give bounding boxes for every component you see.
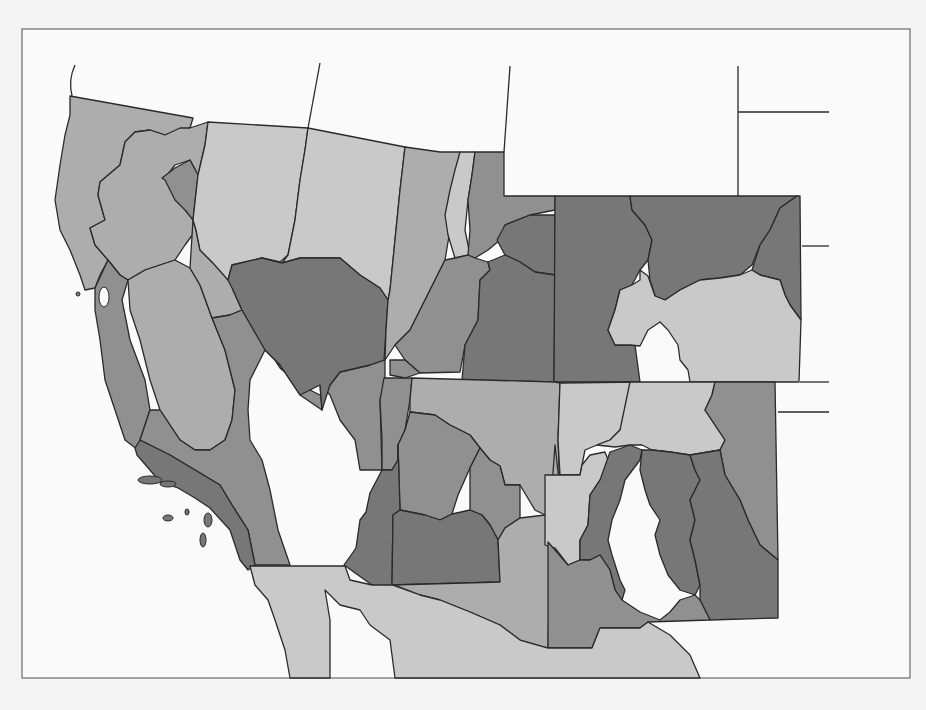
channel-island-1	[138, 476, 162, 484]
farallon-dot	[76, 292, 80, 296]
region-az-maricopa	[392, 510, 500, 585]
southwest-choropleth-map	[0, 0, 926, 710]
channel-island-4	[185, 509, 189, 515]
channel-island-5	[204, 513, 212, 527]
san-francisco-bay-water	[99, 287, 109, 307]
channel-island-6	[200, 533, 206, 547]
channel-island-3	[163, 515, 173, 521]
map-stage	[0, 0, 926, 710]
channel-island-2	[160, 481, 176, 487]
